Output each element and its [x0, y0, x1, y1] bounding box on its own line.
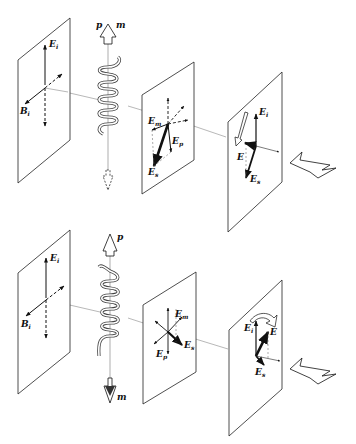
label-e-magnetic: Em — [175, 310, 188, 320]
dipole-arrow-up — [103, 234, 117, 256]
diagram-canvas: Ei Bi p m Em Ep Es Ei E Es Ei Bi p m Em … — [0, 0, 356, 444]
resultant-plane — [229, 280, 282, 436]
label-resultant-e-scattered: Es — [255, 368, 265, 378]
label-e-electric: Ep — [156, 350, 167, 360]
label-resultant-e: E — [270, 328, 277, 337]
label-b-incident: Bi — [20, 107, 30, 117]
label-resultant-e-incident: Ei — [244, 324, 253, 334]
scattered-plane — [143, 272, 196, 404]
propagation-arrow — [290, 358, 336, 384]
label-magnetic-dipole-m: m — [117, 393, 127, 402]
label-b-incident: Bi — [21, 320, 31, 330]
label-e-scattered: Es — [184, 341, 194, 351]
helix — [99, 234, 118, 403]
helix — [99, 24, 120, 190]
label-e-incident: Ei — [49, 40, 58, 50]
incident-plane — [18, 230, 70, 394]
label-electric-dipole-p: p — [96, 21, 102, 30]
dipole-arrow-up — [100, 24, 116, 44]
diagram-svg — [0, 0, 356, 444]
propagation-arrow — [290, 152, 336, 178]
label-e-incident: Ei — [50, 254, 59, 264]
dipole-arrow-down-dashed — [103, 170, 113, 190]
label-e-electric: Ep — [172, 137, 183, 147]
label-resultant-e: E — [237, 153, 244, 162]
bottom-panel — [18, 230, 336, 436]
label-resultant-e-scattered: Es — [250, 175, 260, 185]
top-panel — [18, 18, 336, 232]
incident-plane — [18, 18, 70, 183]
label-electric-dipole-p: p — [117, 233, 123, 242]
label-e-magnetic: Em — [148, 117, 161, 127]
label-e-scattered: Es — [148, 168, 158, 178]
label-magnetic-dipole-m: m — [116, 21, 126, 30]
label-resultant-e-incident: Ei — [259, 108, 268, 118]
